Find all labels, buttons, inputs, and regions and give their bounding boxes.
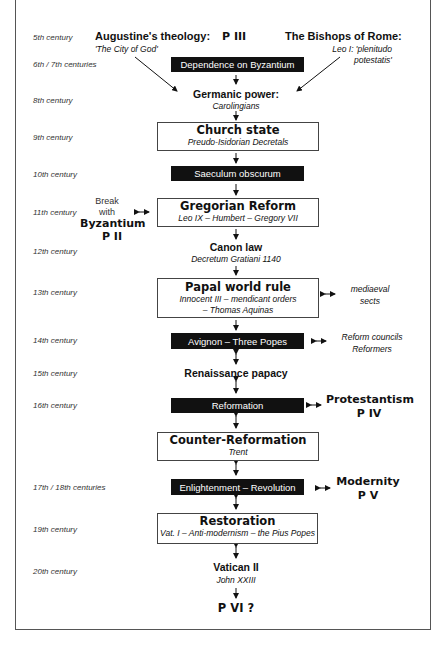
- node-restoration: Restoration Vat. I – Anti-modernism – th…: [157, 513, 318, 544]
- p4-label: P IV: [326, 407, 412, 420]
- papal-subtitle-2: – Thomas Aquinas: [158, 305, 318, 316]
- protestantism-label: Protestantism: [326, 393, 412, 406]
- node-dependence-byzantium: Dependence on Byzantium: [171, 57, 304, 72]
- node-counter-reformation: Counter-Reformation Trent: [157, 432, 319, 461]
- augustine-subtitle: 'The City of God': [95, 44, 158, 54]
- bishops-title: The Bishops of Rome:: [285, 30, 402, 42]
- gregorian-title: Gregorian Reform: [158, 200, 318, 213]
- node-church-state: Church state Preudo-Isidorian Decretals: [157, 122, 319, 151]
- papal-subtitle-1: Innocent III – mendicant orders: [158, 294, 318, 305]
- mediaeval-label: mediaeval: [340, 284, 400, 294]
- papal-title: Papal world rule: [158, 281, 318, 294]
- germanic-subtitle: Carolingians: [136, 101, 336, 111]
- modernity-label: Modernity: [336, 475, 400, 488]
- renaissance-papacy: Renaissance papacy: [136, 367, 336, 379]
- sects-label: sects: [340, 296, 400, 306]
- with-label: with: [80, 207, 134, 217]
- break-label: Break: [80, 196, 134, 206]
- node-papal-world-rule: Papal world rule Innocent III – mendican…: [157, 278, 319, 318]
- bishops-subtitle-1: Leo I: 'plenitudo: [330, 44, 392, 54]
- church-state-title: Church state: [158, 124, 318, 137]
- canon-law-subtitle: Decretum Gratiani 1140: [136, 254, 336, 264]
- p5-label: P V: [336, 489, 400, 502]
- node-avignon: Avignon – Three Popes: [171, 333, 304, 349]
- node-reformation: Reformation: [171, 398, 304, 413]
- counter-subtitle: Trent: [158, 447, 318, 458]
- p2-label: P II: [80, 230, 144, 243]
- restoration-subtitle: Vat. I – Anti-modernism – the Pius Popes: [158, 528, 317, 539]
- reform-councils-label: Reform councils: [332, 332, 412, 342]
- byzantium-label: Byzantium: [80, 217, 144, 230]
- node-enlightenment: Enlightenment – Revolution: [171, 479, 304, 495]
- node-saeculum-obscurum: Saeculum obscurum: [171, 166, 304, 181]
- church-state-subtitle: Preudo-Isidorian Decretals: [158, 137, 318, 148]
- canon-law-title: Canon law: [136, 241, 336, 253]
- counter-title: Counter-Reformation: [158, 434, 318, 447]
- p6-label: P VI ?: [136, 601, 336, 615]
- restoration-title: Restoration: [158, 515, 317, 528]
- germanic-title: Germanic power:: [136, 88, 336, 100]
- augustine-title: Augustine's theology:: [95, 30, 210, 42]
- reformers-label: Reformers: [332, 344, 412, 354]
- bishops-subtitle-2: potestatis': [330, 55, 392, 65]
- vatican-title: Vatican II: [136, 561, 336, 573]
- p3-label: P III: [222, 30, 246, 43]
- gregorian-subtitle: Leo IX – Humbert – Gregory VII: [158, 213, 318, 224]
- node-gregorian-reform: Gregorian Reform Leo IX – Humbert – Greg…: [157, 198, 319, 227]
- vatican-subtitle: John XXIII: [136, 575, 336, 585]
